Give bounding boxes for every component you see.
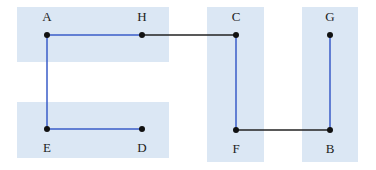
region-layer	[17, 7, 358, 162]
node-g	[327, 32, 333, 38]
graph-diagram: AHCGEDFB	[0, 0, 376, 170]
node-label-c: C	[232, 9, 241, 24]
node-h	[139, 32, 145, 38]
node-f	[233, 127, 239, 133]
node-label-a: A	[42, 9, 52, 24]
node-label-h: H	[137, 9, 146, 24]
node-e	[44, 126, 50, 132]
node-label-g: G	[325, 9, 334, 24]
node-label-f: F	[232, 141, 239, 156]
node-b	[327, 127, 333, 133]
node-label-d: D	[137, 140, 146, 155]
node-c	[233, 32, 239, 38]
node-label-e: E	[43, 140, 51, 155]
node-d	[139, 126, 145, 132]
node-label-b: B	[326, 141, 335, 156]
node-a	[44, 32, 50, 38]
